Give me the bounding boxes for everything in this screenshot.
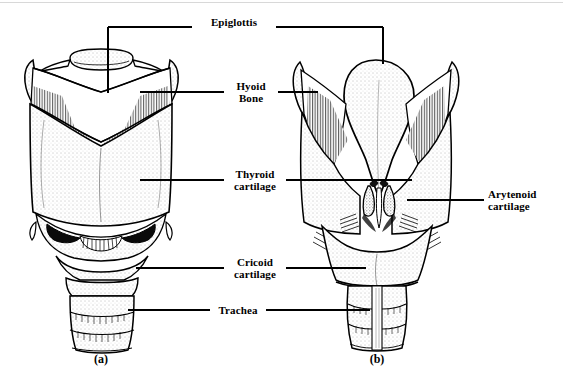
label-thyroid-cartilage: Thyroid cartilage — [224, 168, 286, 192]
label-cricoid-cartilage-line-2: cartilage — [224, 268, 286, 280]
trachea-posterior — [347, 286, 407, 351]
larynx-figure: Epiglottis Hyoid Bone Thyroid cartilage … — [0, 0, 563, 375]
epiglottis-posterior — [344, 60, 414, 198]
label-arytenoid-cartilage-line-2: cartilage — [488, 200, 560, 212]
label-cricoid-cartilage-line-1: Cricoid — [224, 256, 286, 268]
label-epiglottis-line-1: Epiglottis — [192, 16, 276, 28]
label-hyoid-bone-line-2: Bone — [224, 92, 278, 104]
panel-label-a: (a) — [81, 352, 121, 367]
label-thyroid-cartilage-line-1: Thyroid — [224, 168, 286, 180]
panel-a-anterior-view — [25, 49, 180, 353]
label-hyoid-bone-line-1: Hyoid — [224, 80, 278, 92]
hyoid-bone-anterior — [38, 49, 165, 72]
label-arytenoid-cartilage-line-1: Arytenoid — [488, 188, 560, 200]
label-thyroid-cartilage-line-2: cartilage — [224, 180, 286, 192]
label-hyoid-bone: Hyoid Bone — [224, 80, 278, 104]
label-trachea-line-1: Trachea — [210, 304, 266, 316]
panel-label-b: (b) — [357, 352, 397, 367]
label-trachea: Trachea — [210, 304, 266, 316]
label-cricoid-cartilage: Cricoid cartilage — [224, 256, 286, 280]
trachea-anterior — [70, 296, 134, 353]
label-epiglottis: Epiglottis — [192, 16, 276, 28]
label-arytenoid-cartilage: Arytenoid cartilage — [488, 188, 560, 212]
panel-b-posterior-view — [293, 60, 459, 351]
cricoid-cartilage-anterior — [56, 256, 148, 296]
arytenoid-cartilage-posterior — [362, 180, 396, 232]
cricoid-cartilage-posterior — [322, 226, 432, 288]
